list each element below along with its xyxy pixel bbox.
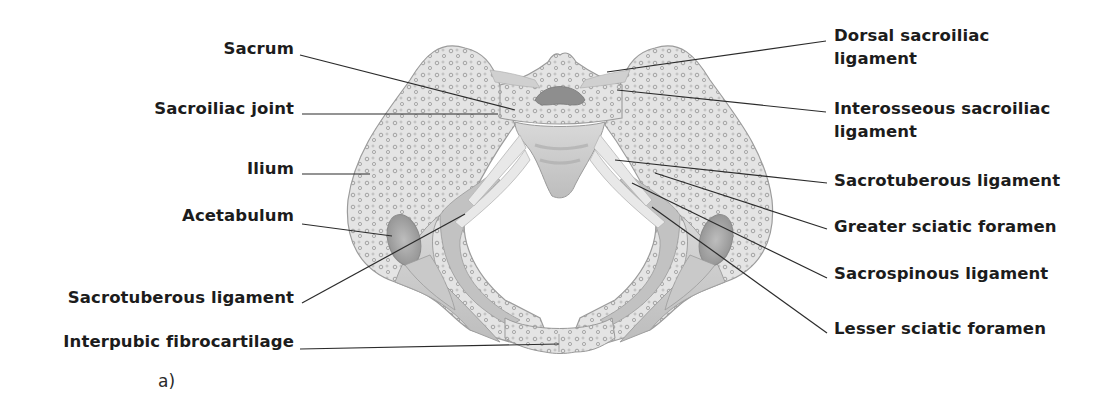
- label-line: ligament: [834, 47, 989, 70]
- label-sacroiliac-joint: Sacroiliac joint: [154, 97, 294, 120]
- label-line: Lesser sciatic foramen: [834, 317, 1046, 340]
- label-line: Greater sciatic foramen: [834, 215, 1057, 238]
- panel-label: a): [158, 371, 175, 391]
- label-lesser-sciatic-foramen: Lesser sciatic foramen: [834, 317, 1046, 340]
- leader-line-interpubic-fibrocartilage: [300, 344, 559, 349]
- label-interosseous-sacroiliac-ligament: Interosseous sacroiliac ligament: [834, 97, 1050, 143]
- label-sacrum: Sacrum: [224, 37, 294, 60]
- label-interpubic-fibrocartilage: Interpubic fibrocartilage: [63, 330, 294, 353]
- label-line: Sacrotuberous ligament: [834, 169, 1060, 192]
- label-line: Interosseous sacroiliac: [834, 97, 1050, 120]
- label-line: Sacrospinous ligament: [834, 262, 1048, 285]
- label-ilium: Ilium: [247, 157, 294, 180]
- label-greater-sciatic-foramen: Greater sciatic foramen: [834, 215, 1057, 238]
- label-acetabulum: Acetabulum: [182, 204, 294, 227]
- label-sacrospinous-ligament: Sacrospinous ligament: [834, 262, 1048, 285]
- label-sacrotuberous-ligament-left: Sacrotuberous ligament: [68, 286, 294, 309]
- label-line: Dorsal sacroiliac: [834, 24, 989, 47]
- label-sacrotuberous-ligament-right: Sacrotuberous ligament: [834, 169, 1060, 192]
- label-line: ligament: [834, 120, 1050, 143]
- label-dorsal-sacroiliac-ligament: Dorsal sacroiliac ligament: [834, 24, 989, 70]
- pelvis-diagram: Sacrum Sacroiliac joint Ilium Acetabulum…: [0, 0, 1109, 414]
